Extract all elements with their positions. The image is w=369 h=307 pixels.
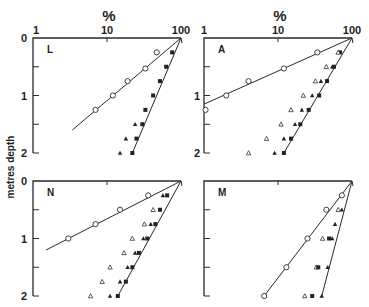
triangle-open-marker xyxy=(324,64,328,68)
triangle-filled-marker xyxy=(310,93,314,97)
square-marker xyxy=(158,208,162,212)
circle-marker xyxy=(284,265,289,270)
circle-marker xyxy=(339,193,344,198)
triangle-filled-marker xyxy=(125,265,129,269)
x-tick-label: 10 xyxy=(272,24,284,36)
triangle-open-marker xyxy=(88,294,92,298)
x-tick-label: 100 xyxy=(343,24,361,36)
chart-canvas: 012110100%L12110100%A012NMmetres depth xyxy=(0,0,369,307)
square-marker xyxy=(130,265,134,269)
y-axis-title-svg: metres depth xyxy=(5,136,16,199)
triangle-open-marker xyxy=(289,108,293,112)
triangle-open-marker xyxy=(303,294,307,298)
circle-marker xyxy=(146,193,151,198)
panel-m: M xyxy=(204,181,353,299)
square-marker xyxy=(158,79,162,83)
circle-marker xyxy=(203,107,208,112)
y-tick-label: 0 xyxy=(21,32,27,44)
triangle-filled-marker xyxy=(133,251,137,255)
y-tick-label: 2 xyxy=(194,147,200,159)
axis-lines xyxy=(33,181,181,296)
y-tick-label: 1 xyxy=(21,233,27,245)
y-tick-label: 2 xyxy=(21,147,27,159)
triangle-open-marker xyxy=(100,279,104,283)
square-marker xyxy=(164,65,168,69)
circle-marker xyxy=(93,222,98,227)
axis-end-tick xyxy=(352,38,353,43)
circle-marker xyxy=(305,236,310,241)
square-marker xyxy=(298,122,302,126)
square-marker xyxy=(316,265,320,269)
triangle-open-marker xyxy=(246,151,250,155)
square-marker xyxy=(307,108,311,112)
circle-marker xyxy=(315,50,320,55)
triangle-filled-marker xyxy=(149,222,153,226)
triangle-filled-marker xyxy=(108,294,112,298)
triangle-open-marker xyxy=(122,251,126,255)
y-tick-label: 0 xyxy=(21,175,27,187)
circle-marker xyxy=(93,107,98,112)
triangle-open-marker xyxy=(279,122,283,126)
panel-label: L xyxy=(47,44,53,55)
axis-lines xyxy=(33,38,181,153)
square-marker xyxy=(289,137,293,141)
circle-marker xyxy=(224,93,229,98)
panel-n: 012N xyxy=(21,175,182,302)
y-tick-label: 1 xyxy=(194,90,200,102)
depth-profile-figure: 012110100%L12110100%A012NMmetres depth m… xyxy=(0,0,369,307)
panel-a: 12110100%A xyxy=(194,7,361,159)
panel-l: 012110100%L xyxy=(21,7,190,159)
y-tick-label: 2 xyxy=(21,290,27,302)
square-marker xyxy=(310,294,314,298)
square-marker xyxy=(153,222,157,226)
triangle-filled-marker xyxy=(161,193,165,197)
circle-marker xyxy=(324,207,329,212)
circle-marker xyxy=(125,79,130,84)
triangle-filled-marker xyxy=(124,136,128,140)
square-marker xyxy=(124,280,128,284)
triangle-open-marker xyxy=(142,222,146,226)
x-axis-title: % xyxy=(102,7,115,24)
circle-marker xyxy=(281,66,286,71)
circle-marker xyxy=(154,50,159,55)
triangle-filled-marker xyxy=(282,136,286,140)
x-tick-label: 10 xyxy=(101,24,113,36)
square-marker xyxy=(170,50,174,54)
triangle-filled-marker xyxy=(293,122,297,126)
y-tick-label: 1 xyxy=(21,90,27,102)
triangle-open-marker xyxy=(151,207,155,211)
square-marker xyxy=(137,251,141,255)
square-marker xyxy=(282,151,286,155)
triangle-open-marker xyxy=(320,236,324,240)
square-marker xyxy=(317,94,321,98)
square-marker xyxy=(325,79,329,83)
circle-marker xyxy=(117,207,122,212)
square-marker xyxy=(151,94,155,98)
fit-line xyxy=(322,181,352,296)
triangle-filled-marker xyxy=(118,279,122,283)
x-axis-title: % xyxy=(273,7,286,24)
circle-marker xyxy=(262,293,267,298)
square-marker xyxy=(145,237,149,241)
triangle-open-marker xyxy=(336,207,340,211)
square-marker xyxy=(327,237,331,241)
circle-marker xyxy=(66,236,71,241)
triangle-filled-marker xyxy=(300,108,304,112)
square-marker xyxy=(130,151,134,155)
triangle-filled-marker xyxy=(133,122,137,126)
square-marker xyxy=(134,137,138,141)
fit-line xyxy=(118,181,181,296)
panel-label: A xyxy=(218,44,225,55)
x-tick-label: 1 xyxy=(33,24,39,36)
panel-label: M xyxy=(218,187,226,198)
triangle-filled-marker xyxy=(272,151,276,155)
triangle-open-marker xyxy=(130,236,134,240)
triangle-open-marker xyxy=(108,265,112,269)
triangle-open-marker xyxy=(264,136,268,140)
triangle-open-marker xyxy=(313,79,317,83)
square-marker xyxy=(140,122,144,126)
square-marker xyxy=(165,193,169,197)
x-tick-label: 100 xyxy=(172,24,190,36)
panel-label: N xyxy=(47,187,54,198)
triangle-open-marker xyxy=(301,93,305,97)
